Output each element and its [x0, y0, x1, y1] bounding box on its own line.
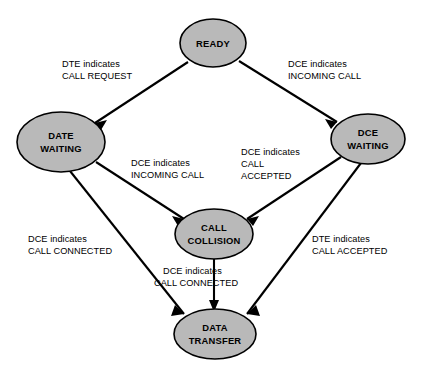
- node-dce-waiting[interactable]: DCE WAITING: [331, 114, 405, 164]
- edge-label-line-1: CALL CONNECTED: [154, 278, 238, 288]
- node-date-waiting-label-line-0: DATE: [48, 130, 74, 141]
- edge-label-line-1: CALL REQUEST: [62, 71, 133, 81]
- node-data-transfer[interactable]: DATA TRANSFER: [174, 309, 256, 359]
- node-call-collision-label-line-0: CALL: [201, 222, 227, 233]
- node-call-collision-shape: [175, 209, 253, 259]
- edge-label-dce-waiting-to-data-transfer: DTE indicates CALL ACCEPTED: [312, 234, 388, 256]
- node-data-transfer-label-line-1: TRANSFER: [189, 335, 242, 346]
- edge-label-line-2: ACCEPTED: [241, 171, 292, 181]
- edge-label-dce-waiting-to-call-collision: DCE indicates CALL ACCEPTED: [241, 147, 300, 181]
- edge-label-line-0: DCE indicates: [163, 266, 222, 276]
- edge-label-ready-to-date-waiting: DTE indicates CALL REQUEST: [62, 59, 133, 81]
- node-call-collision-label-line-1: COLLISION: [188, 235, 241, 246]
- edge-label-line-0: DCE indicates: [131, 158, 190, 168]
- node-date-waiting[interactable]: DATE WAITING: [17, 112, 105, 172]
- edge-label-line-0: DCE indicates: [28, 234, 87, 244]
- node-dce-waiting-shape: [331, 114, 405, 164]
- edge-label-line-1: INCOMING CALL: [131, 170, 204, 180]
- node-ready[interactable]: READY: [180, 19, 246, 67]
- node-date-waiting-shape: [17, 112, 105, 172]
- edge-date-waiting-to-data-transfer: [70, 171, 184, 316]
- edge-label-line-1: INCOMING CALL: [288, 71, 361, 81]
- edge-label-line-1: CALL CONNECTED: [28, 246, 112, 256]
- edge-label-line-0: DTE indicates: [312, 234, 370, 244]
- edge-label-ready-to-dce-waiting: DCE indicates INCOMING CALL: [288, 59, 361, 81]
- edge-label-line-1: CALL: [241, 159, 264, 169]
- edge-label-date-waiting-to-data-transfer: DCE indicates CALL CONNECTED: [28, 234, 112, 256]
- node-call-collision[interactable]: CALL COLLISION: [175, 209, 253, 259]
- edge-label-call-collision-to-data-transfer: DCE indicates CALL CONNECTED: [154, 266, 238, 288]
- edge-label-line-0: DCE indicates: [288, 59, 347, 69]
- edge-label-date-waiting-to-call-collision: DCE indicates INCOMING CALL: [131, 158, 204, 180]
- node-dce-waiting-label-line-1: WAITING: [347, 140, 389, 151]
- node-data-transfer-label-line-0: DATA: [202, 322, 227, 333]
- node-data-transfer-shape: [174, 309, 256, 359]
- node-ready-label-line-0: READY: [196, 38, 230, 49]
- node-dce-waiting-label-line-0: DCE: [358, 127, 378, 138]
- state-diagram: READY DATE WAITING DCE WAITING CALL COLL…: [0, 0, 421, 381]
- edge-label-line-0: DTE indicates: [62, 59, 120, 69]
- edge-label-line-1: CALL ACCEPTED: [312, 246, 388, 256]
- edge-label-line-0: DCE indicates: [241, 147, 300, 157]
- diagram-canvas: READY DATE WAITING DCE WAITING CALL COLL…: [0, 0, 421, 381]
- node-date-waiting-label-line-1: WAITING: [40, 143, 82, 154]
